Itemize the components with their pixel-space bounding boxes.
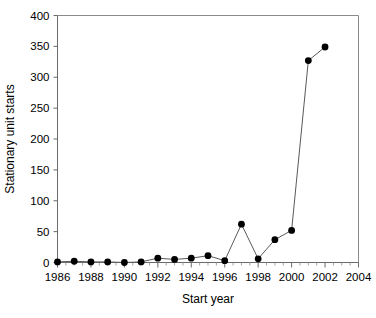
x-tick-label: 2002 [312,271,338,283]
y-tick-label: 100 [30,195,49,207]
y-tick-label: 200 [30,133,49,145]
y-tick-label: 350 [30,40,49,52]
x-tick-label: 1988 [78,271,104,283]
x-tick-label: 1992 [145,271,171,283]
data-point [255,255,262,262]
data-point [238,221,245,228]
data-point [305,57,312,64]
data-point [322,44,329,51]
data-point [121,259,128,266]
line-chart: 050100150200250300350400 198619881990199… [0,0,376,318]
data-point [171,256,178,263]
x-tick-label: 1996 [212,271,238,283]
data-point [71,258,78,265]
x-tick-label: 1986 [45,271,71,283]
y-tick-label: 400 [30,10,49,22]
y-axis-title: Stationary unit starts [3,84,17,193]
x-tick-label: 2000 [279,271,305,283]
x-tick-label: 1998 [245,271,271,283]
data-point [88,258,95,265]
y-tick-label: 50 [37,226,50,238]
data-point [154,255,161,262]
data-point [54,258,61,265]
y-tick-label: 150 [30,164,49,176]
y-tick-label: 250 [30,102,49,114]
data-point [138,258,145,265]
x-tick-label: 2004 [346,271,372,283]
chart-figure: 050100150200250300350400 198619881990199… [0,0,376,318]
x-axis-title: Start year [182,292,234,306]
data-point [221,257,228,264]
data-point [104,258,111,265]
x-tick-label: 1994 [178,271,204,283]
data-point [205,252,212,259]
data-point [271,236,278,243]
x-tick-label: 1990 [112,271,138,283]
data-point [188,255,195,262]
data-point [288,227,295,234]
y-tick-label: 300 [30,71,49,83]
y-tick-label: 0 [43,257,49,269]
